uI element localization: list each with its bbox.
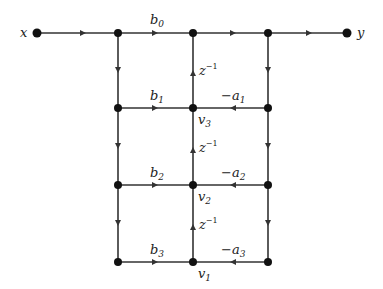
- arrow-right-icon: [230, 30, 236, 36]
- arrow-left-icon: [230, 259, 236, 265]
- node: [264, 258, 272, 266]
- arrow-down-icon: [265, 67, 271, 73]
- gain-b2: b2: [150, 165, 164, 182]
- gain-neg-a2: −a2: [221, 165, 246, 182]
- gain-b1: b1: [150, 88, 164, 105]
- input-node: [33, 29, 42, 38]
- input-label: x: [20, 25, 28, 40]
- node: [114, 104, 122, 112]
- state-label-v3: v3: [198, 112, 211, 129]
- arrow-left-icon: [230, 105, 236, 111]
- arrow-right-icon: [152, 105, 158, 111]
- arrow-down-icon: [115, 220, 121, 226]
- gain-b3: b3: [150, 242, 164, 259]
- node: [114, 29, 122, 37]
- arrow-down-icon: [265, 220, 271, 226]
- state-label-v2: v2: [198, 189, 211, 206]
- arrow-right-icon: [80, 30, 86, 36]
- node: [264, 29, 272, 37]
- arrow-up-icon: [190, 147, 196, 153]
- delay-label: z−1: [198, 139, 218, 155]
- arrow-up-icon: [190, 70, 196, 76]
- output-node: [343, 29, 352, 38]
- arrow-left-icon: [230, 182, 236, 188]
- arrow-up-icon: [190, 224, 196, 230]
- arrow-down-icon: [265, 143, 271, 149]
- delay-label: z−1: [198, 62, 218, 78]
- arrow-right-icon: [152, 259, 158, 265]
- signal-flow-graph: x y b0 b1 b2 b3 −a1 −a2 −a3 z−1 z−1 z−1 …: [0, 0, 383, 289]
- node: [264, 104, 272, 112]
- state-node-v1: [189, 258, 197, 266]
- node: [264, 181, 272, 189]
- arrow-right-icon: [306, 30, 312, 36]
- node: [114, 181, 122, 189]
- state-node-v3: [189, 104, 197, 112]
- delay-label: z−1: [198, 216, 218, 232]
- arrow-right-icon: [152, 182, 158, 188]
- output-label: y: [356, 25, 365, 40]
- state-node-v2: [189, 181, 197, 189]
- node: [114, 258, 122, 266]
- arrow-down-icon: [115, 67, 121, 73]
- gain-neg-a3: −a3: [221, 242, 246, 259]
- state-label-v1: v1: [198, 266, 211, 283]
- arrow-right-icon: [152, 30, 158, 36]
- gain-b0: b0: [150, 12, 164, 29]
- node: [189, 29, 197, 37]
- gain-neg-a1: −a1: [221, 88, 245, 105]
- arrow-down-icon: [115, 143, 121, 149]
